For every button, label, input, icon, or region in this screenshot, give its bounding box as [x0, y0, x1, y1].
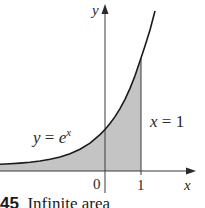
function-label-y: y [33, 128, 41, 147]
exponential-area-diagram [0, 0, 205, 208]
x-axis-label: x [184, 177, 191, 194]
tick-label-zero: 0 [93, 176, 101, 193]
x-axis-arrow-icon [186, 168, 196, 175]
tick-label-one: 1 [137, 177, 145, 194]
caption-text: Infinite area [27, 194, 110, 208]
y-axis-arrow-icon [102, 4, 109, 14]
function-label-exp: x [66, 126, 71, 138]
y-axis-label: y [92, 2, 99, 19]
boundary-label: x = 1 [150, 112, 184, 132]
function-label-eq: = [41, 128, 59, 147]
caption-number: 45 [0, 194, 19, 208]
function-label: y = ex [33, 126, 71, 148]
figure-caption: 45 Infinite area [0, 194, 110, 208]
boundary-label-eq: = 1 [158, 112, 185, 131]
boundary-label-var: x [150, 112, 158, 131]
